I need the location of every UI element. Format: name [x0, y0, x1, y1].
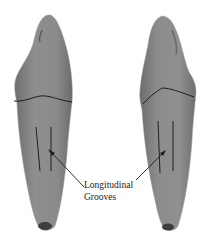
annotation-label-line2: Grooves	[84, 192, 116, 203]
right-tooth	[140, 16, 196, 231]
tooth-diagram	[0, 0, 208, 241]
annotation-label-line1: Longitudinal	[84, 180, 133, 191]
left-tooth	[14, 15, 72, 230]
